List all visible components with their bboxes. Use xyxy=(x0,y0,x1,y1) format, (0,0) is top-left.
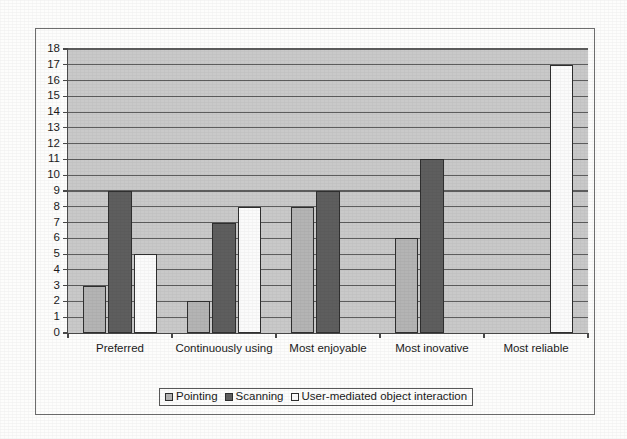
y-axis-tick-mark xyxy=(63,112,68,113)
y-axis-tick-label: 0 xyxy=(34,327,60,339)
y-axis-tick-mark xyxy=(63,159,68,160)
x-axis-category-label: Most enjoyable xyxy=(276,342,380,355)
y-axis-tick-mark xyxy=(63,317,68,318)
y-axis-tick-mark xyxy=(63,269,68,270)
y-axis-tick-label: 4 xyxy=(34,264,60,276)
y-axis-tick-label: 9 xyxy=(34,185,60,197)
x-axis-category-label: Preferred xyxy=(68,342,172,355)
x-axis-category-label: Most reliable xyxy=(484,342,588,355)
x-axis-tick-mark xyxy=(67,333,68,338)
y-axis-tick-mark xyxy=(63,285,68,286)
y-axis-tick-mark xyxy=(63,254,68,255)
legend-item-label: Pointing xyxy=(176,391,218,403)
y-axis-tick-mark xyxy=(63,190,68,191)
y-axis-tick-label: 11 xyxy=(34,153,60,165)
y-axis-tick-label: 3 xyxy=(34,280,60,292)
y-axis-tick-label: 5 xyxy=(34,248,60,260)
bar xyxy=(83,286,106,333)
gridline xyxy=(68,143,588,144)
scanned-page: 0123456789101112131415161718 PreferredCo… xyxy=(0,0,627,439)
y-axis-tick-label: 17 xyxy=(34,59,60,71)
y-axis-tick-mark xyxy=(63,64,68,65)
bar xyxy=(238,207,261,333)
y-axis-tick-mark xyxy=(63,238,68,239)
y-axis-tick-label: 16 xyxy=(34,75,60,87)
legend-item-label: Scanning xyxy=(236,391,284,403)
y-axis-tick-mark xyxy=(63,222,68,223)
y-axis-tick-label: 15 xyxy=(34,90,60,102)
legend-item: Scanning xyxy=(225,391,284,403)
y-axis-tick-label: 18 xyxy=(34,43,60,55)
chart-legend: PointingScanningUser-mediated object int… xyxy=(159,388,473,406)
x-axis-tick-mark xyxy=(587,333,588,338)
legend-item: Pointing xyxy=(165,391,218,403)
gridline xyxy=(68,159,588,160)
y-axis-tick-label: 8 xyxy=(34,201,60,213)
gridline xyxy=(68,80,588,81)
bar xyxy=(108,191,131,333)
y-axis-tick-label: 12 xyxy=(34,138,60,150)
x-axis-category-label: Most inovative xyxy=(380,342,484,355)
bar xyxy=(291,207,314,333)
y-axis-tick-mark xyxy=(63,48,68,49)
y-axis-tick-mark xyxy=(63,96,68,97)
bar xyxy=(187,301,210,333)
plot-area xyxy=(68,49,588,333)
x-axis-line xyxy=(67,333,588,334)
gridline xyxy=(68,48,588,49)
y-axis-tick-mark xyxy=(63,143,68,144)
y-axis-tick-mark xyxy=(63,301,68,302)
y-axis-tick-label: 1 xyxy=(34,311,60,323)
y-axis-tick-label: 6 xyxy=(34,232,60,244)
legend-swatch-icon xyxy=(225,393,233,401)
bar xyxy=(395,238,418,333)
x-axis-category-label: Continuously using xyxy=(172,342,276,355)
bar xyxy=(212,223,235,333)
x-axis-tick-mark xyxy=(275,333,276,338)
gridline xyxy=(68,96,588,97)
y-axis-tick-label: 10 xyxy=(34,169,60,181)
y-axis-tick-mark xyxy=(63,80,68,81)
legend-swatch-icon xyxy=(165,393,173,401)
y-axis-tick-mark xyxy=(63,175,68,176)
x-axis-tick-mark xyxy=(379,333,380,338)
y-axis-tick-mark xyxy=(63,127,68,128)
legend-item-label: User-mediated object interaction xyxy=(302,391,468,403)
bar xyxy=(550,65,573,333)
bar xyxy=(134,254,157,333)
x-axis-tick-mark xyxy=(483,333,484,338)
gridline xyxy=(68,64,588,65)
y-axis-tick-label: 14 xyxy=(34,106,60,118)
gridline xyxy=(68,112,588,113)
x-axis-tick-mark xyxy=(171,333,172,338)
bar xyxy=(420,159,443,333)
bar xyxy=(316,191,339,333)
legend-item: User-mediated object interaction xyxy=(291,391,468,403)
y-axis-tick-mark xyxy=(63,206,68,207)
y-axis-tick-label: 7 xyxy=(34,217,60,229)
y-axis-tick-label: 13 xyxy=(34,122,60,134)
gridline xyxy=(68,127,588,128)
y-axis-tick-label: 2 xyxy=(34,295,60,307)
legend-swatch-icon xyxy=(291,393,299,401)
gridline xyxy=(68,175,588,176)
